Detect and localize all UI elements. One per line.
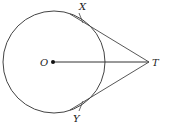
label-y: Y <box>73 113 81 124</box>
center-point-o <box>51 60 55 64</box>
label-t: T <box>152 57 160 68</box>
label-x: X <box>78 1 87 12</box>
label-o: O <box>40 57 48 68</box>
tangent-diagram: O T X Y <box>0 0 169 129</box>
